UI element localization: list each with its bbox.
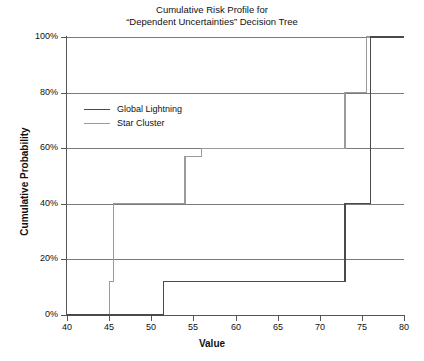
cumulative-risk-profile-chart: Cumulative Risk Profile for “Dependent U… [0,0,424,361]
legend-item-global-lightning: Global Lightning [84,102,182,116]
series-line-global-lightning [67,37,404,315]
series-line-star-cluster [67,37,404,315]
chart-legend: Global Lightning Star Cluster [84,102,182,130]
series-plot-layer [0,0,424,361]
legend-label-global-lightning: Global Lightning [117,104,182,114]
legend-label-star-cluster: Star Cluster [117,118,165,128]
legend-swatch-global-lightning [84,109,110,110]
legend-item-star-cluster: Star Cluster [84,116,182,130]
legend-swatch-star-cluster [84,123,110,124]
